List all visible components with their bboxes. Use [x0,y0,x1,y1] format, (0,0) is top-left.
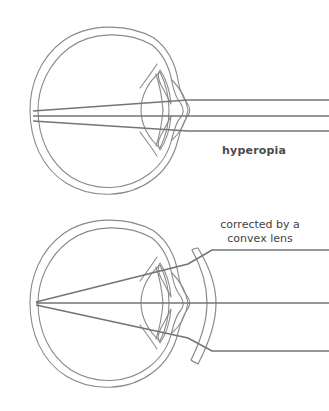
sclera-outer-outline [30,27,190,194]
label-corrected-line-1: corrected by a [220,218,300,231]
ray-top-uncorrected [33,100,329,111]
diagram-canvas [0,0,329,411]
label-hyperopia: hyperopia [222,144,286,157]
iris-strand-upper [156,74,163,110]
label-corrected-by-convex-lens: corrected by aconvex lens [214,218,306,246]
label-corrected-line-2: convex lens [227,232,292,245]
eye-diagram-figure: hyperopia corrected by aconvex lens [0,0,329,411]
sclera-inner-outline-corrected [38,228,183,381]
crystalline-lens [141,72,169,148]
ray-bottom-corrected [36,305,329,351]
ray-top-corrected [36,250,329,302]
iris-strand-lower-corrected [156,303,163,339]
sclera-inner-outline [38,35,183,188]
panel-uncorrected [30,27,329,194]
